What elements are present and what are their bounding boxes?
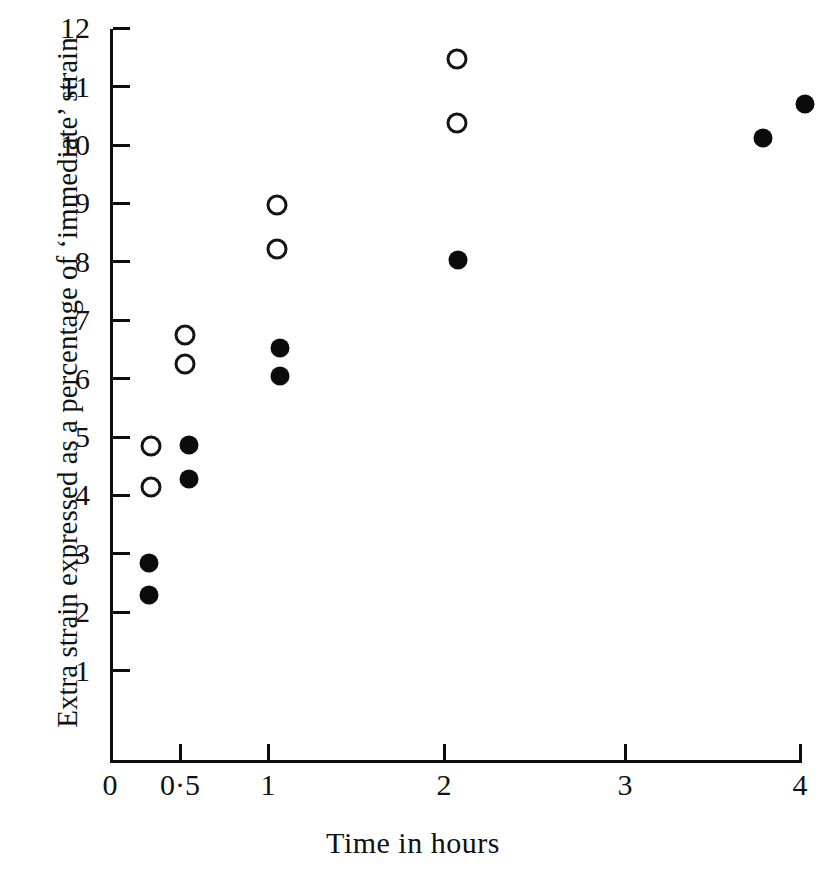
data-point-open-circles	[446, 113, 467, 134]
y-axis-tick	[113, 319, 130, 322]
y-axis-title: Extra strain expressed as a percentage o…	[51, 13, 84, 753]
y-axis-tick	[113, 611, 130, 614]
y-axis-tick	[113, 260, 130, 263]
x-axis-tick	[624, 744, 627, 761]
data-point-open-circles	[446, 49, 467, 70]
data-point-open-circles	[175, 354, 196, 375]
data-point-filled-circles	[449, 251, 468, 270]
data-point-filled-circles	[271, 339, 290, 358]
y-axis-tick	[113, 436, 130, 439]
x-axis-tick-label: 3	[618, 770, 633, 800]
scatter-chart-figure: 123456789101112 00·51234 Extra strain ex…	[0, 0, 826, 877]
x-axis-tick	[179, 744, 182, 761]
data-point-open-circles	[140, 435, 161, 456]
y-axis-tick	[113, 144, 130, 147]
data-point-open-circles	[266, 195, 287, 216]
y-axis-tick	[113, 377, 130, 380]
y-axis-tick	[113, 85, 130, 88]
x-axis-tick	[443, 744, 446, 761]
x-axis-tick-label: 4	[793, 770, 808, 800]
data-point-filled-circles	[179, 435, 198, 454]
y-axis-line	[110, 29, 113, 762]
data-point-open-circles	[266, 238, 287, 259]
data-point-open-circles	[140, 476, 161, 497]
y-axis-tick	[113, 27, 130, 30]
x-axis-tick-label: 0	[103, 770, 118, 800]
data-point-filled-circles	[271, 366, 290, 385]
data-point-filled-circles	[179, 470, 198, 489]
x-axis-tick-label: 1	[261, 770, 276, 800]
data-point-filled-circles	[140, 585, 159, 604]
x-axis-title: Time in hours	[0, 826, 826, 860]
x-axis-line	[110, 760, 802, 763]
y-axis-tick	[113, 494, 130, 497]
x-axis-tick	[799, 744, 802, 761]
x-axis-tick-label: 2	[437, 770, 452, 800]
data-point-filled-circles	[140, 553, 159, 572]
data-point-filled-circles	[796, 95, 815, 114]
y-axis-tick	[113, 552, 130, 555]
data-point-filled-circles	[754, 128, 773, 147]
y-axis-tick	[113, 202, 130, 205]
x-axis-tick-label: 0·5	[160, 770, 200, 800]
data-point-open-circles	[175, 324, 196, 345]
y-axis-tick	[113, 669, 130, 672]
x-axis-tick	[267, 744, 270, 761]
